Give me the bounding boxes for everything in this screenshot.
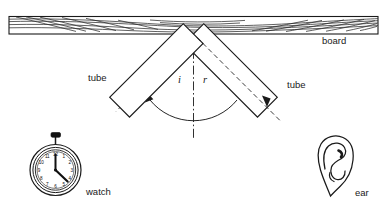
svg-text:5: 5 <box>62 182 65 187</box>
svg-text:10: 10 <box>39 160 45 165</box>
tube-right-axis <box>197 38 280 121</box>
svg-text:4: 4 <box>68 176 71 181</box>
tube-right-label: tube <box>287 79 306 90</box>
board-group <box>9 17 378 35</box>
angle-incidence-label: i <box>178 74 181 85</box>
svg-text:11: 11 <box>45 154 50 159</box>
ear-antihelix <box>331 159 345 180</box>
ear-group <box>318 136 353 196</box>
figure-canvas: board i r tube <box>0 0 386 208</box>
svg-text:9: 9 <box>38 168 41 173</box>
svg-text:1: 1 <box>62 154 65 159</box>
svg-text:2: 2 <box>68 160 71 165</box>
svg-text:3: 3 <box>71 168 74 173</box>
board-label: board <box>322 35 346 46</box>
tube-left-label: tube <box>88 72 107 83</box>
physics-diagram: board i r tube <box>0 0 386 208</box>
ear-label: ear <box>355 187 369 198</box>
angle-reflection-label: r <box>203 74 208 85</box>
svg-text:7: 7 <box>46 182 49 187</box>
ear-concha-shade <box>339 151 343 158</box>
watch-crown-icon <box>51 133 61 138</box>
ear-outline <box>318 136 353 196</box>
watch-group: 12 1 2 3 4 5 6 7 8 9 10 11 <box>30 133 81 196</box>
tube-right-body <box>110 24 203 117</box>
watch-label: watch <box>85 186 111 197</box>
svg-text:6: 6 <box>54 184 57 189</box>
watch-hand-pivot <box>54 169 57 172</box>
svg-text:8: 8 <box>40 176 43 181</box>
